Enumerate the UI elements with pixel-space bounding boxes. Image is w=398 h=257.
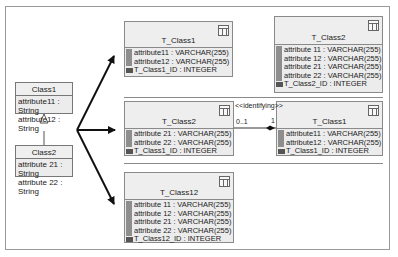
primary-key-column: T_Class1_ID : INTEGER — [134, 146, 217, 155]
table-icon — [218, 25, 229, 36]
table-icon — [219, 176, 230, 187]
primary-key-icon — [126, 237, 133, 242]
arrow-to-option1-icon — [77, 56, 114, 130]
table-name: T_Class2 — [125, 118, 233, 127]
arrow-to-option3-icon — [77, 130, 114, 204]
separator-1 — [124, 97, 383, 98]
table-t-class2[interactable]: T_Class2 attribute 11 : VARCHAR(255) att… — [274, 16, 383, 93]
table-name: T_Class12 — [125, 189, 233, 198]
primary-foreign-key-icon — [126, 149, 133, 154]
primary-key-column: T_Class12_ID : INTEGER — [134, 234, 221, 243]
column-key-bar — [276, 46, 282, 81]
table-t-class2-child[interactable]: T_Class2 attribute 21 : VARCHAR(255) att… — [124, 101, 234, 156]
primary-key-icon — [276, 82, 283, 87]
class-attribute: attribute 21 : String — [18, 160, 70, 178]
primary-key-icon — [126, 68, 133, 73]
column-key-bar — [126, 130, 132, 147]
relationship-diamond-icon — [266, 126, 275, 131]
uml-class1[interactable]: Class1 attribute11 : String attribute12 … — [15, 82, 73, 114]
primary-key-column: T_Class1_ID : INTEGER — [286, 146, 369, 155]
table-icon — [368, 20, 379, 31]
table-name: T_Class2 — [275, 34, 382, 43]
separator-2 — [124, 163, 383, 164]
multiplicity-right: 1 — [271, 117, 275, 124]
column-key-bar — [278, 130, 284, 147]
table-name: T_Class1 — [277, 118, 382, 127]
class-attribute: attribute12 : String — [18, 115, 70, 133]
class-attribute: attribute 22 : String — [18, 178, 70, 196]
multiplicity-left: 0..1 — [236, 118, 248, 125]
table-t-class12[interactable]: T_Class12 attribute 11 : VARCHAR(255) at… — [124, 172, 234, 243]
primary-key-icon — [278, 149, 285, 154]
primary-key-column: T_Class1_ID : INTEGER — [134, 65, 217, 74]
table-t-class1[interactable]: T_Class1 attribute11 : VARCHAR(255) attr… — [124, 21, 233, 77]
column-key-bar — [126, 201, 132, 236]
table-icon — [219, 105, 230, 116]
table-icon — [368, 105, 379, 116]
class-attribute: attribute11 : String — [18, 97, 70, 115]
primary-key-column: T_Class2_ID : INTEGER — [284, 79, 367, 88]
relationship-stereotype: <<identifying>> — [235, 102, 283, 109]
class-name: Class1 — [16, 83, 72, 96]
table-name: T_Class1 — [125, 37, 232, 46]
uml-class2[interactable]: Class2 attribute 21 : String attribute 2… — [15, 145, 73, 177]
table-t-class1-parent[interactable]: T_Class1 attribute11 : VARCHAR(255) attr… — [276, 101, 383, 156]
class-name: Class2 — [16, 146, 72, 159]
column-key-bar — [126, 49, 132, 66]
